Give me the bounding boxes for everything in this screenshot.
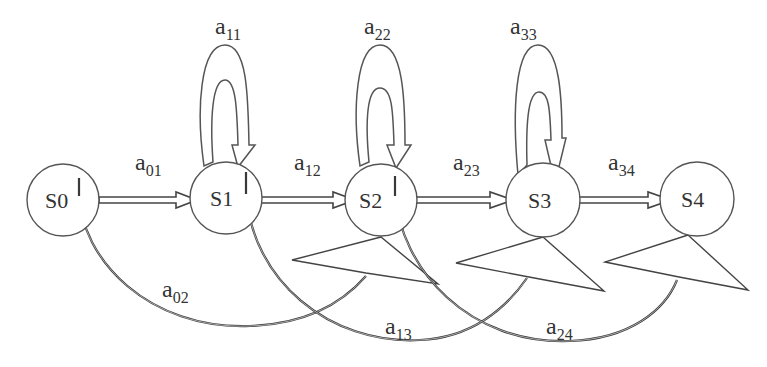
self-loop-s1 <box>200 45 255 167</box>
forward-arrow-s2-s3 <box>408 192 513 208</box>
state-s3: S3 <box>506 163 580 237</box>
label-a33: a33 <box>510 13 537 43</box>
hmm-state-diagram: S0 S1 S2 S3 S4 a01 a12 a23 a34 a11 a22 a… <box>0 0 767 367</box>
forward-arrow-s1-s2 <box>257 192 355 208</box>
self-loop-s2 <box>356 45 411 168</box>
self-loop-s3 <box>515 45 566 183</box>
state-s1: S1 <box>190 162 262 234</box>
label-a23: a23 <box>453 149 480 179</box>
label-a22: a22 <box>364 13 391 43</box>
state-label-s2: S2 <box>359 188 382 213</box>
label-a01: a01 <box>135 149 162 179</box>
state-label-s4: S4 <box>681 187 704 212</box>
label-a13: a13 <box>385 313 412 343</box>
label-a11: a11 <box>215 13 241 43</box>
label-a12: a12 <box>294 149 321 179</box>
forward-arrow-s3-s4 <box>572 192 671 208</box>
state-s0: S0 <box>27 164 99 236</box>
state-label-s1: S1 <box>210 186 233 211</box>
state-label-s3: S3 <box>528 188 551 213</box>
state-s2: S2 <box>345 164 417 236</box>
label-a02: a02 <box>162 276 189 306</box>
state-label-s0: S0 <box>45 188 68 213</box>
skip-arrowhead-s1-s3 <box>456 237 604 291</box>
forward-arrow-s0-s1 <box>99 192 197 208</box>
state-s4: S4 <box>660 162 734 236</box>
label-a24: a24 <box>546 313 573 343</box>
label-a34: a34 <box>608 149 635 179</box>
